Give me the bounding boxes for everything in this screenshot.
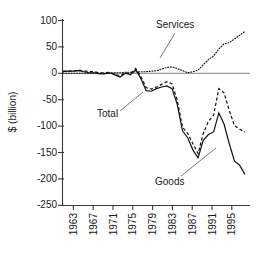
x-tick-label: 1991 — [207, 213, 218, 236]
trade-balance-line-chart: $ (billion) 100 50 0 -50 -100 -150 -200 … — [0, 0, 258, 254]
x-tick-label: 1987 — [187, 213, 198, 236]
y-tick-label: -100 — [37, 120, 57, 131]
x-axis-ticks — [73, 206, 231, 211]
x-tick-label: 1983 — [167, 213, 178, 236]
chart-figure: $ (billion) 100 50 0 -50 -100 -150 -200 … — [0, 0, 258, 254]
series-line-total — [63, 69, 245, 154]
y-tick-label: 100 — [40, 15, 57, 26]
series-label-services: Services — [156, 19, 194, 30]
x-tick-label: 1979 — [147, 213, 158, 236]
x-tick-label: 1975 — [127, 213, 138, 236]
series-label-total: Total — [97, 108, 118, 119]
x-tick-label: 1995 — [226, 213, 237, 236]
y-tick-label: -50 — [43, 94, 58, 105]
goods-leader-line — [181, 148, 216, 176]
x-tick-label: 1967 — [88, 213, 99, 236]
y-tick-label: 50 — [46, 41, 58, 52]
x-axis-tick-labels: 1963 1967 1971 1975 1979 1983 1987 1991 … — [68, 213, 237, 236]
y-axis-title: $ (billion) — [7, 92, 18, 133]
x-tick-label: 1971 — [108, 213, 119, 236]
series-line-services — [63, 32, 245, 74]
x-tick-label: 1963 — [68, 213, 79, 236]
services-leader-line — [160, 33, 175, 58]
y-axis-tick-labels: 100 50 0 -50 -100 -150 -200 -250 — [37, 15, 57, 210]
series-line-goods — [63, 70, 245, 175]
series-label-goods: Goods — [155, 176, 184, 187]
y-tick-label: -150 — [37, 147, 57, 158]
total-leader-line — [120, 92, 143, 111]
y-tick-label: -200 — [37, 173, 57, 184]
y-axis-ticks — [58, 21, 64, 206]
y-tick-label: 0 — [51, 67, 57, 78]
y-tick-label: -250 — [37, 199, 57, 210]
